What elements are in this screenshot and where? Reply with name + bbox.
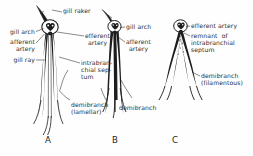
label-gill-ray: gill ray bbox=[1, 56, 35, 63]
panel-letter-b: B bbox=[112, 135, 118, 145]
label-efferent-artery-a-line2: artery bbox=[88, 39, 107, 46]
label-demibranch-b: demibranch bbox=[119, 104, 156, 111]
panel-letter-a: A bbox=[45, 135, 51, 145]
panel-letter-c: C bbox=[172, 135, 178, 145]
label-gill-raker: gill raker bbox=[63, 7, 91, 14]
label-intrabranchial-septum-line3: tum bbox=[81, 73, 94, 80]
label-afferent-artery-a-line2: artery bbox=[1, 45, 35, 52]
panel-a-drawing bbox=[34, 6, 84, 136]
gill-structure-figure: gill raker gill arch afferent artery gil… bbox=[0, 0, 253, 156]
label-demibranch-lamellar-line2: (lamellar) bbox=[71, 108, 102, 115]
label-efferent-artery-c: efferent artery bbox=[191, 22, 237, 29]
label-afferent-artery-b-line2: artery bbox=[129, 45, 148, 52]
label-gill-arch-a: gill arch bbox=[1, 28, 35, 35]
label-demibranch-filamentous-line2: (filamentous) bbox=[201, 79, 243, 86]
label-remnant-line3: septum bbox=[191, 46, 215, 53]
label-gill-arch-b: gill arch bbox=[126, 23, 151, 30]
